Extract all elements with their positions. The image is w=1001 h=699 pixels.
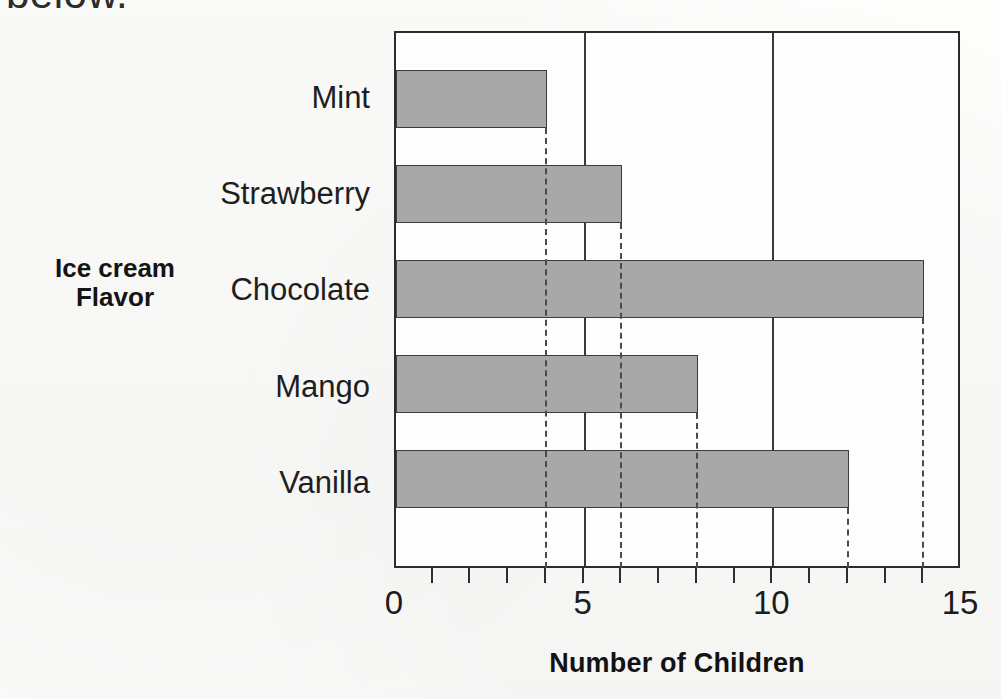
category-label-strawberry: Strawberry — [220, 178, 370, 209]
leader-line-vanilla — [847, 508, 849, 568]
x-tick-10 — [770, 568, 772, 583]
leader-line-chocolate — [922, 318, 924, 568]
x-tick-label-5: 5 — [573, 586, 591, 619]
category-label-group: Mint Strawberry Chocolate Mango Vanilla — [0, 0, 382, 699]
leader-line-mango — [696, 413, 698, 568]
x-tick-label-10: 10 — [753, 586, 790, 619]
x-axis-title: Number of Children — [394, 648, 960, 679]
x-tick-13 — [884, 568, 886, 583]
chart-page: below. Ice cream Flavor Mint Strawberry … — [0, 0, 1001, 699]
x-axis-ticks — [394, 568, 960, 586]
x-tick-14 — [921, 568, 923, 583]
category-label-chocolate: Chocolate — [230, 274, 370, 305]
x-tick-6 — [619, 568, 621, 583]
x-tick-9 — [733, 568, 735, 583]
x-tick-3 — [506, 568, 508, 583]
category-label-vanilla: Vanilla — [279, 467, 370, 498]
leader-line-mint — [545, 128, 547, 568]
leader-line-strawberry — [620, 223, 622, 568]
x-tick-11 — [808, 568, 810, 583]
x-tick-label-0: 0 — [385, 586, 403, 619]
x-tick-label-15: 15 — [942, 586, 979, 619]
bar-mango — [396, 355, 698, 413]
bar-vanilla — [396, 450, 849, 508]
x-tick-8 — [695, 568, 697, 583]
x-tick-7 — [657, 568, 659, 583]
bar-chocolate — [396, 260, 924, 318]
x-tick-4 — [544, 568, 546, 583]
bar-strawberry — [396, 165, 622, 223]
x-tick-5 — [582, 568, 584, 583]
category-label-mango: Mango — [275, 371, 370, 402]
plot-area — [394, 31, 960, 568]
x-tick-1 — [431, 568, 433, 583]
x-tick-2 — [468, 568, 470, 583]
bar-mint — [396, 70, 547, 128]
category-label-mint: Mint — [311, 82, 370, 113]
x-tick-12 — [846, 568, 848, 583]
